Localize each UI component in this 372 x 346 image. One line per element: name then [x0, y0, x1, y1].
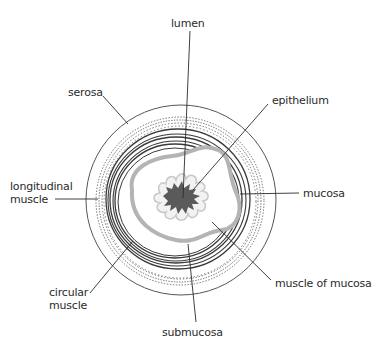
serosa-leader [103, 96, 128, 124]
label-mucosa: mucosa [303, 187, 345, 200]
label-longitudinal-muscle-line1: longitudinal [10, 180, 73, 193]
label-serosa: serosa [68, 86, 103, 99]
label-epithelium: epithelium [272, 94, 329, 107]
label-circular-muscle-line1: circular [49, 286, 88, 299]
label-muscle-of-mucosa: muscle of mucosa [275, 277, 372, 290]
label-circular-muscle-line2: muscle [49, 299, 87, 312]
label-lumen: lumen [171, 17, 204, 30]
label-submucosa: submucosa [162, 326, 223, 339]
label-longitudinal-muscle-line2: muscle [10, 193, 48, 206]
